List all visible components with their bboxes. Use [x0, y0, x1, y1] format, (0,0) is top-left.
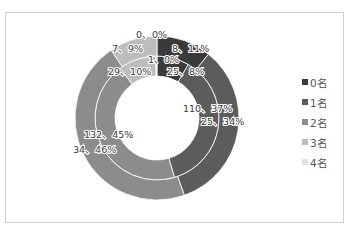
- legend-label: 1名: [310, 95, 327, 110]
- legend-label: 0名: [310, 75, 327, 90]
- outer-data-label-2: 34、46%: [73, 144, 116, 155]
- outer-data-label-0: 8、11%: [172, 43, 209, 54]
- legend-swatch-icon: [302, 99, 308, 105]
- inner-data-label-0: 25、8%: [167, 66, 204, 77]
- inner-data-label-4: 1、0%: [148, 54, 179, 65]
- legend-item-0: 0名: [302, 72, 327, 92]
- double-donut-chart: 25、8%110、37%132、45%29、10%1、0%8、11%25、34%…: [0, 0, 349, 234]
- inner-data-label-1: 110、37%: [183, 103, 232, 114]
- legend-label: 3名: [310, 135, 327, 150]
- legend-swatch-icon: [302, 139, 308, 145]
- legend-swatch-icon: [302, 119, 308, 125]
- legend: 0名 1名 2名 3名 4名: [302, 72, 327, 172]
- legend-item-3: 3名: [302, 132, 327, 152]
- inner-data-label-2: 132、45%: [84, 129, 133, 140]
- legend-swatch-icon: [302, 159, 308, 165]
- legend-swatch-icon: [302, 79, 308, 85]
- outer-data-label-1: 25、34%: [201, 116, 244, 127]
- legend-item-1: 1名: [302, 92, 327, 112]
- outer-data-label-3: 7、9%: [112, 43, 143, 54]
- legend-item-2: 2名: [302, 112, 327, 132]
- legend-label: 2名: [310, 115, 327, 130]
- inner-data-label-3: 29、10%: [108, 66, 151, 77]
- legend-item-4: 4名: [302, 152, 327, 172]
- outer-data-label-4: 0、0%: [136, 29, 167, 40]
- legend-label: 4名: [310, 155, 327, 170]
